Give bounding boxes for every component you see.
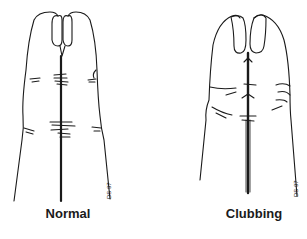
normal-label: Normal	[18, 206, 118, 221]
artist-signature-clubbing: DS 97	[293, 180, 299, 197]
finger-illustration	[0, 0, 307, 239]
clubbing-label: Clubbing	[204, 206, 304, 221]
clubbing-finger	[200, 15, 297, 196]
artist-signature-normal: DS 97	[106, 182, 112, 199]
normal-finger	[14, 12, 110, 201]
